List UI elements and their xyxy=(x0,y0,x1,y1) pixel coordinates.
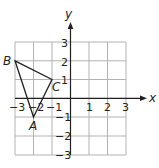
x-tick-2: 2 xyxy=(104,101,111,114)
y-tick-labels: 3 2 1 −1 −2 −3 xyxy=(55,37,71,162)
y-tick-neg3: −3 xyxy=(55,149,71,162)
x-axis-arrow-icon xyxy=(140,96,147,102)
y-axis-label: y xyxy=(64,7,73,21)
x-tick-1: 1 xyxy=(86,101,93,114)
vertex-label-a: A xyxy=(28,119,37,133)
y-tick-neg2: −2 xyxy=(55,130,71,143)
vertex-label-c: C xyxy=(52,80,61,94)
y-tick-1: 1 xyxy=(61,74,68,87)
vertex-label-b: B xyxy=(3,54,11,68)
y-tick-3: 3 xyxy=(61,37,68,50)
x-axis-label: x xyxy=(148,91,157,105)
y-tick-2: 2 xyxy=(61,56,68,69)
y-axis-arrow-icon xyxy=(68,22,74,29)
coordinate-plane: x y −3 −2 −1 1 2 3 3 2 1 −1 −2 −3 B C A xyxy=(0,0,159,168)
x-tick-3: 3 xyxy=(122,101,129,114)
x-tick-neg3: −3 xyxy=(9,101,25,114)
y-tick-neg1: −1 xyxy=(55,111,71,124)
